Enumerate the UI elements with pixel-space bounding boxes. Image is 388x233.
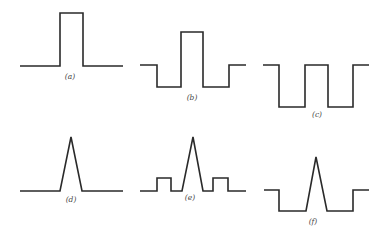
- panel-d: (d): [20, 137, 123, 204]
- label-f: (f): [309, 217, 318, 226]
- waveform-e: [140, 137, 246, 191]
- panel-b: (b): [140, 32, 246, 102]
- label-e: (e): [185, 193, 195, 202]
- label-b: (b): [187, 93, 198, 102]
- panel-e: (e): [140, 137, 246, 202]
- panel-f: (f): [264, 157, 369, 226]
- label-a: (a): [65, 72, 75, 81]
- panel-c: (c): [263, 65, 369, 119]
- waveform-a: [20, 13, 123, 66]
- waveform-f: [264, 157, 369, 211]
- panel-a: (a): [20, 13, 123, 81]
- waveform-d: [20, 137, 123, 191]
- waveform-b: [140, 32, 246, 87]
- label-d: (d): [66, 195, 77, 204]
- label-c: (c): [312, 110, 322, 119]
- waveform-c: [263, 65, 369, 107]
- pulse-shapes-diagram: (a) (b) (c) (d) (e) (f): [0, 0, 388, 233]
